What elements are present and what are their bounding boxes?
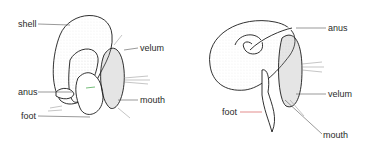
label-mouth-right: mouth — [323, 130, 348, 140]
label-velum-left: velum — [140, 43, 164, 53]
left-veliger — [48, 15, 150, 118]
right-velum-lobe — [279, 35, 302, 107]
label-mouth-left: mouth — [140, 95, 165, 105]
label-anus-right: anus — [328, 23, 348, 33]
left-anus-lobe — [56, 88, 74, 98]
label-foot-left: foot — [21, 111, 36, 121]
label-shell: shell — [18, 19, 37, 29]
left-velum-lobe — [101, 48, 125, 108]
label-velum-right: velum — [328, 89, 352, 99]
label-foot-right: foot — [222, 107, 237, 117]
label-anus-left: anus — [18, 87, 38, 97]
right-foot — [262, 70, 275, 132]
veliger-diagram — [0, 0, 369, 150]
left-foot-lobe — [76, 73, 103, 115]
